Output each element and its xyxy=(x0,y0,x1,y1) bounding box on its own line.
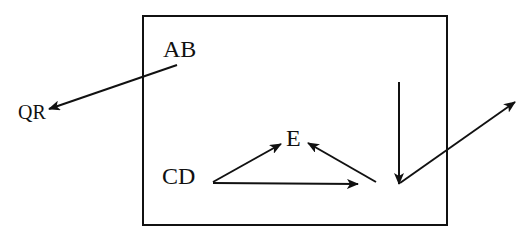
arrow-ab-to-qr xyxy=(49,65,177,109)
label-qr: QR xyxy=(18,101,46,123)
diagram-canvas: AB QR E CD xyxy=(0,0,530,239)
arrow-cd-to-e xyxy=(213,144,281,182)
label-ab: AB xyxy=(163,36,196,62)
labels: AB QR E CD xyxy=(18,36,301,189)
label-e: E xyxy=(286,125,301,151)
label-cd: CD xyxy=(162,163,195,189)
arrow-point-to-outside xyxy=(400,102,515,183)
arrow-point-to-e xyxy=(308,143,376,182)
arrow-cd-to-right xyxy=(213,183,358,184)
arrows xyxy=(49,65,515,184)
